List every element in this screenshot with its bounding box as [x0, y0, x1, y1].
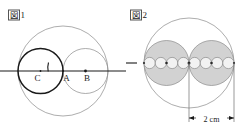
radius-tick-mark — [48, 63, 49, 72]
small-circle — [189, 57, 200, 68]
figure-2-caption-number: 2 — [142, 10, 147, 20]
figure-sheet: 図1 C A B 図2 — [0, 0, 252, 135]
small-circle — [155, 57, 166, 68]
point-dot-a — [62, 70, 64, 72]
point-label-a: A — [63, 73, 70, 83]
figure-1-caption: 図1 — [8, 10, 25, 21]
point-label-c: C — [34, 73, 40, 83]
figure-2-caption: 図2 — [130, 10, 147, 21]
dimension-arrow-left-icon — [189, 116, 194, 120]
dimension-2cm: 2 cm — [189, 113, 234, 124]
small-circle — [144, 57, 155, 68]
small-circle — [167, 57, 178, 68]
small-circle — [200, 57, 211, 68]
tangency-dot — [210, 62, 213, 65]
point-dot-c — [40, 70, 42, 72]
tangency-dot — [143, 62, 145, 64]
figure-2-panel: 図2 — [126, 0, 252, 135]
figure-1-panel: 図1 C A B — [0, 0, 126, 135]
dimension-label: 2 cm — [204, 115, 221, 124]
point-dot-b — [84, 70, 87, 73]
small-circle — [212, 57, 223, 68]
figure-1-caption-cjk: 図 — [8, 10, 20, 21]
figure-1-caption-number: 1 — [20, 10, 25, 20]
point-label-b: B — [84, 73, 90, 83]
small-circle — [223, 57, 234, 68]
dimension-arrow-right-icon — [229, 116, 234, 120]
figure-2-caption-cjk: 図 — [130, 10, 142, 21]
tangency-dot — [165, 62, 168, 65]
small-circle — [178, 57, 189, 68]
